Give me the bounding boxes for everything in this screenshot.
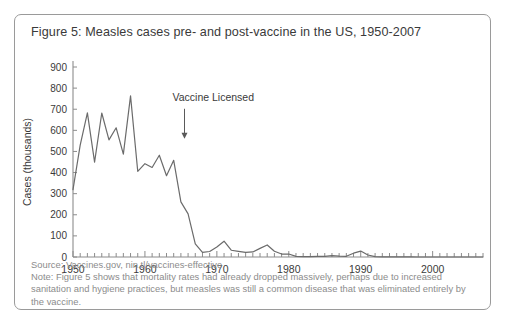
y-axis-title: Cases (thousands) xyxy=(21,118,33,206)
figure-title: Figure 5: Measles cases pre- and post-va… xyxy=(31,25,421,39)
y-tick-label: 700 xyxy=(50,104,67,115)
y-tick-label: 100 xyxy=(50,230,67,241)
axis-lines-group xyxy=(73,61,483,257)
y-axis-title-group: Cases (thousands) xyxy=(21,118,33,206)
y-tick-label: 600 xyxy=(50,125,67,136)
caption-source: Source: Vaccines.gov, nin.tl/vaccines-ef… xyxy=(31,259,471,271)
y-tick-label: 400 xyxy=(50,167,67,178)
y-tick-label: 500 xyxy=(50,146,67,157)
figure-caption: Source: Vaccines.gov, nin.tl/vaccines-ef… xyxy=(31,259,471,308)
figure-container: Figure 5: Measles cases pre- and post-va… xyxy=(14,14,491,310)
annotation-label: Vaccine Licensed xyxy=(173,91,255,103)
y-tick-label: 200 xyxy=(50,209,67,220)
chart-plot-area: Cases (thousands) 0100200300400500600700… xyxy=(15,45,492,275)
y-tick-label: 300 xyxy=(50,188,67,199)
y-tick-label: 800 xyxy=(50,83,67,94)
measles-line-chart: Cases (thousands) 0100200300400500600700… xyxy=(15,45,492,275)
annotation-arrow-head xyxy=(182,133,188,139)
y-tick-label: 900 xyxy=(50,62,67,73)
data-series-group xyxy=(73,96,483,257)
caption-note: Note: Figure 5 shows that mortality rate… xyxy=(31,271,471,308)
series-line xyxy=(73,96,483,257)
vaccine-licensed-annotation: Vaccine Licensed xyxy=(173,91,255,139)
